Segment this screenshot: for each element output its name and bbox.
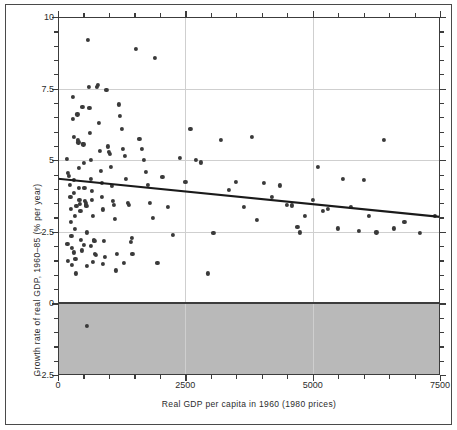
x-tick-label: 0: [55, 380, 60, 390]
y-tick-minor-right: [440, 60, 444, 61]
plot-right-spine: [439, 17, 440, 375]
x-tick-minor: [415, 375, 416, 379]
plot-area: [58, 17, 440, 375]
y-tick-minor-right: [440, 217, 444, 218]
y-tick-label: 5: [49, 155, 54, 165]
x-tick-label: 7500: [430, 380, 450, 390]
gridline-vertical: [185, 17, 186, 375]
gridline-horizontal: [58, 89, 440, 90]
x-tick-minor: [160, 375, 161, 379]
y-tick-minor-right: [440, 189, 444, 190]
y-tick-minor-right: [440, 103, 444, 104]
plot-top-spine: [58, 17, 440, 18]
y-tick-minor-right: [440, 289, 444, 290]
y-tick-minor-right: [440, 346, 444, 347]
gridline-vertical: [313, 17, 314, 375]
y-tick-minor-right: [440, 175, 444, 176]
y-tick-minor-right: [440, 260, 444, 261]
y-tick-label: 0: [49, 298, 54, 308]
gridline-horizontal: [58, 232, 440, 233]
x-tick-major-top: [440, 11, 441, 17]
y-axis-title-wrapper: Growth rate of real GDP, 1960–85 (% per …: [14, 90, 28, 300]
y-tick-label: 7.5: [41, 84, 54, 94]
x-tick-minor: [262, 375, 263, 379]
y-tick-minor-right: [440, 203, 444, 204]
y-tick-major-right: [440, 17, 446, 18]
x-tick-label: 5000: [303, 380, 323, 390]
x-tick-minor: [389, 375, 390, 379]
y-tick-minor-right: [440, 46, 444, 47]
y-tick-minor-right: [440, 146, 444, 147]
zero-axis-line: [58, 302, 440, 304]
y-tick-label: 2.5: [41, 227, 54, 237]
y-tick-major-right: [440, 303, 446, 304]
x-axis-title: Real GDP per capita in 1960 (1980 prices…: [58, 399, 440, 409]
x-tick-minor: [364, 375, 365, 379]
y-tick-minor-right: [440, 31, 444, 32]
x-tick-minor: [109, 375, 110, 379]
gridline-horizontal: [58, 160, 440, 161]
y-tick-label: 10: [44, 12, 54, 22]
y-tick-major-right: [440, 89, 446, 90]
y-tick-minor-right: [440, 74, 444, 75]
y-tick-major-right: [440, 160, 446, 161]
x-tick-minor: [338, 375, 339, 379]
y-tick-minor-right: [440, 246, 444, 247]
y-tick-minor-right: [440, 361, 444, 362]
y-tick-minor-right: [440, 332, 444, 333]
figure-canvas: −2.502.557.510 0250050007500 Real GDP pe…: [0, 0, 457, 430]
x-tick-minor: [211, 375, 212, 379]
y-tick-major-right: [440, 232, 446, 233]
x-tick-minor: [83, 375, 84, 379]
y-axis-line: [58, 17, 59, 375]
x-tick-label: 2500: [175, 380, 195, 390]
y-tick-minor-right: [440, 275, 444, 276]
x-tick-minor: [134, 375, 135, 379]
y-tick-minor-right: [440, 318, 444, 319]
x-tick-minor: [287, 375, 288, 379]
y-tick-minor-right: [440, 132, 444, 133]
y-axis-title: Growth rate of real GDP, 1960–85 (% per …: [32, 175, 42, 385]
x-axis-line: [58, 374, 440, 375]
x-tick-minor: [236, 375, 237, 379]
x-axis-tick-labels: 0250050007500: [58, 380, 440, 394]
y-tick-minor-right: [440, 117, 444, 118]
negative-growth-shaded-region: [58, 303, 440, 375]
